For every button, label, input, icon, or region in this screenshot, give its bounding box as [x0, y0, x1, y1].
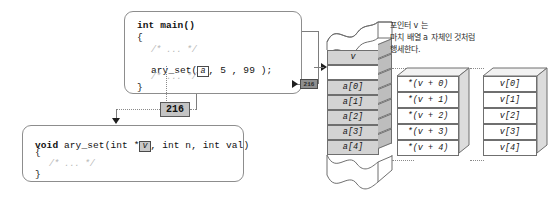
deref-row-0: *(v + 0) — [397, 76, 459, 92]
index-row-0: v[0] — [483, 76, 537, 92]
argument-a-box[interactable]: a — [197, 66, 208, 77]
index-row-4: v[4] — [483, 140, 537, 156]
memory-cell-a0: a[0] — [327, 80, 379, 95]
param-v-prefix: int * — [110, 140, 139, 151]
memory-cell-v: v — [327, 50, 379, 65]
main-function-code-panel: int main() { /* ... */ ary_set(a, 5 , 99… — [124, 11, 302, 94]
connector-value-horizontal — [116, 109, 166, 110]
pointer-value-chip-small: 216 — [300, 79, 318, 89]
param-rest: , int n, int val) — [151, 140, 250, 151]
main-signature: int main() — [137, 20, 195, 32]
ary-set-function-panel: void ary_set(int *v, int n, int val) { /… — [22, 125, 244, 182]
memory-cell-a3: a[3] — [327, 125, 379, 140]
memory-cell-a1: a[1] — [327, 95, 379, 110]
main-close-brace: } — [137, 82, 143, 94]
main-comment-bottom: /* ... */ — [151, 72, 197, 84]
caption-line-2: 마치 배열 a 자체인 것처럼 — [390, 32, 475, 44]
ary-set-close-brace: } — [35, 169, 41, 181]
deref-row-3: *(v + 3) — [397, 124, 459, 140]
pointer-arithmetic-table: *(v + 0) *(v + 1) *(v + 2) *(v + 3) *(v … — [396, 74, 476, 166]
main-open-brace: { — [137, 32, 143, 44]
memory-cell-gap — [327, 65, 379, 80]
call-suffix: , 5 , 99 ); — [209, 65, 273, 76]
index-table-right-face — [536, 67, 552, 159]
memory-cell-a4: a[4] — [327, 140, 379, 155]
index-row-1: v[1] — [483, 92, 537, 108]
connector-into-v-cell — [314, 67, 324, 68]
ary-set-signature-line: void ary_set(int *v, int n, int val) — [35, 134, 249, 152]
index-row-2: v[2] — [483, 108, 537, 124]
parameter-v-box[interactable]: v — [139, 141, 150, 152]
caption-line-1: 포인터 v 는 — [390, 20, 428, 32]
connector-panel-to-memory-top — [302, 31, 318, 32]
ary-set-name: ary_set( — [58, 140, 110, 151]
arrow-into-parameter-v — [112, 118, 120, 124]
connector-chip-right — [190, 109, 196, 110]
index-row-3: v[3] — [483, 124, 537, 140]
memory-bottom-wave-icon — [326, 155, 394, 199]
memory-cell-a2: a[2] — [327, 110, 379, 125]
connector-chip-up — [196, 94, 197, 110]
pointer-value-chip: 216 — [160, 102, 190, 117]
ary-set-open-brace: { — [35, 147, 41, 159]
caption-line-3: 행세한다. — [390, 44, 421, 56]
pointer-index-table: v[0] v[1] v[2] v[3] v[4] — [482, 74, 554, 166]
deref-table-right-face — [458, 67, 474, 159]
deref-row-1: *(v + 1) — [397, 92, 459, 108]
main-comment-top: /* ... */ — [151, 45, 197, 57]
connector-memory-drop — [318, 31, 319, 84]
arrow-to-small-chip — [292, 80, 298, 88]
ary-set-comment: /* ... */ — [49, 159, 95, 171]
deref-row-4: *(v + 4) — [397, 140, 459, 156]
deref-row-2: *(v + 2) — [397, 108, 459, 124]
memory-column: v a[0] a[1] a[2] a[3] a[4] — [326, 16, 394, 192]
